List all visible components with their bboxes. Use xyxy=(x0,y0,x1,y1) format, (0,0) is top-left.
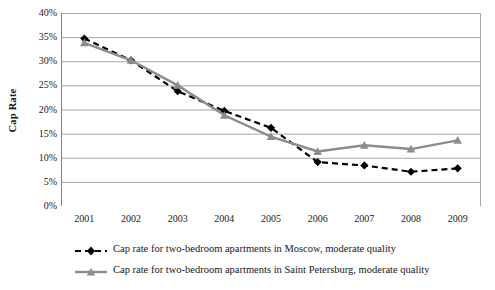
y-tick-label: 20% xyxy=(1,105,57,115)
y-tick-label: 5% xyxy=(1,177,57,187)
x-tick-label: 2009 xyxy=(433,213,483,225)
plot-area xyxy=(61,13,481,206)
data-point-marker xyxy=(454,164,462,172)
x-tick-label: 2005 xyxy=(246,213,296,225)
legend-marker xyxy=(87,246,95,255)
x-tick-label: 2008 xyxy=(386,213,436,225)
x-tick-label: 2002 xyxy=(106,213,156,225)
cap-rate-line-chart: Cap Rate 0%5%10%15%20%25%30%35%40% 20012… xyxy=(0,0,495,290)
y-tick-label: 35% xyxy=(1,32,57,42)
legend-label: Cap rate for two-bedroom apartments in S… xyxy=(113,264,429,276)
legend-label: Cap rate for two-bedroom apartments in M… xyxy=(113,243,396,255)
legend-item[interactable]: Cap rate for two-bedroom apartments in M… xyxy=(0,238,495,259)
legend-key-diamond-icon xyxy=(74,243,108,255)
series-line-0 xyxy=(84,39,457,172)
x-tick-label: 2007 xyxy=(339,213,389,225)
x-tick-label: 2006 xyxy=(293,213,343,225)
x-tick-label: 2001 xyxy=(59,213,109,225)
y-tick-label: 15% xyxy=(1,129,57,139)
data-point-marker xyxy=(360,161,368,169)
y-tick-label: 10% xyxy=(1,153,57,163)
x-axis-tick-labels: 200120022003200420052006200720082009 xyxy=(61,213,481,229)
y-tick-label: 30% xyxy=(1,56,57,66)
x-tick-label: 2003 xyxy=(153,213,203,225)
plot-svg xyxy=(61,13,481,206)
y-tick-label: 40% xyxy=(1,8,57,18)
y-tick-label: 0% xyxy=(1,201,57,211)
legend-item[interactable]: Cap rate for two-bedroom apartments in S… xyxy=(0,259,495,280)
y-axis-tick-labels: 0%5%10%15%20%25%30%35%40% xyxy=(0,13,57,206)
data-point-marker xyxy=(407,168,415,176)
legend-key-triangle-icon xyxy=(74,264,108,276)
chart-legend: Cap rate for two-bedroom apartments in M… xyxy=(0,238,495,280)
y-tick-label: 25% xyxy=(1,80,57,90)
x-tick-label: 2004 xyxy=(199,213,249,225)
